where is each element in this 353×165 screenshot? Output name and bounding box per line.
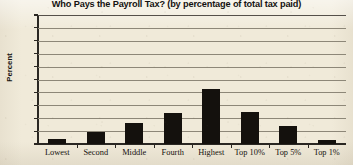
bar	[87, 132, 105, 144]
x-axis-tick-labels: LowestSecondMiddleFourthHighestTop 10%To…	[38, 148, 346, 163]
bar	[279, 126, 297, 144]
gridline	[38, 80, 346, 81]
gridline	[38, 28, 346, 29]
gridline	[38, 41, 346, 42]
x-axis-tick-label: Fourth	[154, 148, 193, 158]
gridline	[38, 118, 346, 119]
gridline	[38, 15, 346, 16]
bar	[202, 89, 220, 144]
chart-title: Who Pays the Payroll Tax? (by percentage…	[0, 0, 353, 11]
y-axis-tick-mark	[34, 66, 39, 67]
x-axis-tick-label: Top 1%	[308, 148, 347, 158]
bar	[48, 139, 66, 144]
bar	[241, 112, 259, 144]
gridline	[38, 54, 346, 55]
bar-chart-figure: Who Pays the Payroll Tax? (by percentage…	[0, 0, 353, 165]
x-axis-tick-label: Top 5%	[269, 148, 308, 158]
gridline	[38, 67, 346, 68]
bar	[164, 113, 182, 144]
x-axis-tick-label: Middle	[115, 148, 154, 158]
bar	[318, 140, 336, 144]
y-axis-title: Percent	[5, 40, 14, 96]
y-axis-tick-mark	[34, 40, 39, 41]
y-axis-tick-mark	[34, 53, 39, 54]
gridline	[38, 105, 346, 106]
y-axis-tick-mark	[34, 14, 39, 15]
plot-area	[38, 15, 346, 144]
x-axis-tick-label: Second	[77, 148, 116, 158]
y-axis-tick-mark	[34, 105, 39, 106]
gridline	[38, 131, 346, 132]
y-axis-tick-mark	[34, 118, 39, 119]
x-axis-tick-label: Top 10%	[231, 148, 270, 158]
y-axis-tick-mark	[34, 131, 39, 132]
x-axis-tick-label: Highest	[192, 148, 231, 158]
y-axis-tick-mark	[34, 27, 39, 28]
gridline	[38, 92, 346, 93]
x-axis-tick-label: Lowest	[38, 148, 77, 158]
y-axis-tick-mark	[34, 79, 39, 80]
y-axis-tick-mark	[34, 143, 39, 144]
bar	[125, 123, 143, 144]
y-axis-tick-mark	[34, 92, 39, 93]
